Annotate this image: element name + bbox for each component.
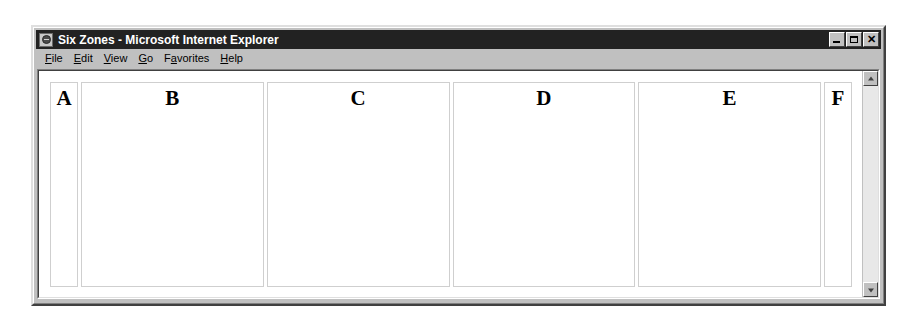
title-bar[interactable]: Six Zones - Microsoft Internet Explorer … [36,30,881,49]
scrollbar-track[interactable] [863,86,878,282]
zone-letter: D [454,85,635,111]
zone-c: C [267,82,450,287]
zone-d: D [453,82,636,287]
menu-bar: File Edit View Go Favorites Help [36,49,881,67]
zone-row: A B C D E [50,82,852,287]
maximize-icon [850,36,858,43]
zone-b: B [81,82,264,287]
ie-document-icon [39,33,53,47]
client-area: A B C D E [37,69,880,299]
menu-item-help[interactable]: Help [215,51,249,65]
zone-letter: F [825,85,851,111]
globe-glyph [42,35,51,44]
scroll-down-arrow-icon [868,288,874,292]
minimize-button[interactable] [829,32,845,47]
zone-f: F [824,82,852,287]
menu-item-go[interactable]: Go [133,51,159,65]
window-title: Six Zones - Microsoft Internet Explorer [58,33,829,47]
menu-item-edit[interactable]: Edit [69,51,99,65]
scroll-down-button[interactable] [863,282,878,297]
web-page: A B C D E [39,71,862,297]
menu-item-file[interactable]: File [40,51,69,65]
zone-letter: A [51,85,77,111]
zone-a: A [50,82,78,287]
screen: Six Zones - Microsoft Internet Explorer … [0,0,917,331]
document-viewport: A B C D E [38,70,879,298]
vertical-scrollbar[interactable] [862,71,878,297]
close-icon: ✕ [864,33,878,46]
window-inner-frame: Six Zones - Microsoft Internet Explorer … [33,27,884,304]
zone-letter: C [268,85,449,111]
zone-e: E [638,82,821,287]
menu-item-view[interactable]: View [99,51,134,65]
zone-letter: E [639,85,820,111]
close-button[interactable]: ✕ [863,32,879,47]
maximize-button[interactable] [846,32,862,47]
window-controls: ✕ [829,32,879,47]
scroll-up-button[interactable] [863,71,878,86]
zone-letter: B [82,85,263,111]
scroll-up-arrow-icon [868,76,874,80]
minimize-icon [833,41,840,43]
browser-window: Six Zones - Microsoft Internet Explorer … [31,25,886,306]
menu-item-favorites[interactable]: Favorites [159,51,215,65]
